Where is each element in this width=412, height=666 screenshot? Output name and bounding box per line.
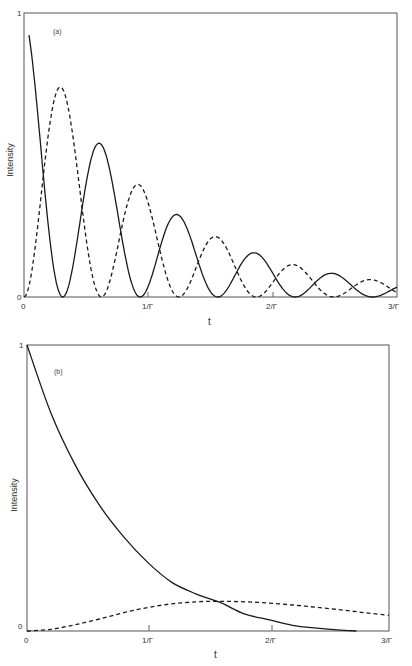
y-tick-top-b: 1	[19, 341, 24, 350]
y-axis-label-a: Intensity	[5, 143, 15, 177]
x-tick-label-b-0: 0	[24, 636, 29, 645]
series-solid-a	[29, 35, 397, 297]
panel-b: 1 0 0 1/Γ 2/Γ 3/Γ t Intensity (b)	[9, 341, 393, 660]
panel-a: 1 0 0 1/Γ 2/Γ 3/Γ t Intensity (a)	[5, 9, 400, 327]
x-tick-label-a-1: 1/Γ	[142, 302, 154, 311]
x-tick-label-b-3: 3/Γ	[381, 636, 393, 645]
figure: 1 0 0 1/Γ 2/Γ 3/Γ t Intensity (a) 1 0 0 …	[0, 0, 412, 666]
plot-frame-a	[24, 13, 397, 297]
x-ticks-b	[149, 625, 272, 631]
x-axis-label-b: t	[214, 649, 217, 660]
x-tick-label-b-1: 1/Γ	[142, 636, 154, 645]
y-axis-label-b: Intensity	[9, 478, 19, 512]
panel-label-b: (b)	[54, 368, 63, 376]
series-solid-b	[27, 345, 356, 631]
y-tick-top-a: 1	[17, 9, 22, 18]
x-tick-label-a-3: 3/Γ	[388, 302, 400, 311]
x-tick-label-b-2: 2/Γ	[265, 636, 277, 645]
x-axis-label-a: t	[208, 316, 211, 327]
plot-frame-b	[27, 345, 389, 631]
panel-label-a: (a)	[53, 28, 62, 36]
series-dashed-a	[24, 87, 397, 297]
x-tick-label-a-0: 0	[21, 302, 26, 311]
series-dashed-b	[27, 601, 389, 631]
y-tick-bottom-a: 0	[17, 293, 22, 302]
y-tick-bottom-b: 0	[18, 622, 23, 631]
x-tick-label-a-2: 2/Γ	[266, 302, 278, 311]
